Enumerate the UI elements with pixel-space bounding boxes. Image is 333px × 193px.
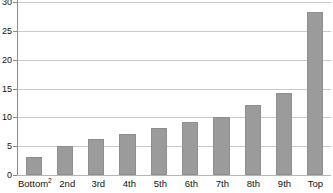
y-axis-tick-label: 30 — [0, 0, 12, 7]
bar — [213, 117, 229, 175]
bar-slot — [49, 0, 80, 176]
bar — [119, 134, 135, 175]
x-axis-tick-label: 2nd — [52, 177, 83, 190]
x-axis-tick-label: 3rd — [83, 177, 114, 190]
bar-slot — [174, 0, 205, 176]
y-axis-tick-label: 25 — [0, 27, 12, 36]
x-axis-tick-label: 8th — [238, 177, 269, 190]
y-axis-tick-label: 15 — [0, 85, 12, 94]
bar — [57, 146, 73, 175]
bar — [88, 139, 104, 175]
bar — [276, 93, 292, 175]
bar-slot — [206, 0, 237, 176]
bars-container — [18, 0, 331, 176]
bar-chart: 051015202530 Bottom22nd3rd4th5th6th7th8t… — [0, 0, 333, 193]
y-axis-tick-label: 5 — [0, 142, 12, 151]
x-axis-tick-label: 6th — [176, 177, 207, 190]
bar-slot — [300, 0, 331, 176]
x-axis-tick-label: 4th — [114, 177, 145, 190]
bar-slot — [268, 0, 299, 176]
x-axis-labels: Bottom22nd3rd4th5th6th7th8th9thTop — [18, 177, 331, 190]
y-axis-tick-label: 0 — [0, 171, 12, 180]
bar — [182, 122, 198, 175]
bar-slot — [237, 0, 268, 176]
bar — [26, 157, 42, 175]
x-axis-tick-label: 5th — [145, 177, 176, 190]
bar — [245, 105, 261, 175]
bar-slot — [143, 0, 174, 176]
bar — [151, 128, 167, 175]
x-axis-tick-label: Top — [300, 177, 331, 190]
y-axis-tick-label: 20 — [0, 56, 12, 65]
bar — [307, 12, 323, 175]
bar-slot — [81, 0, 112, 176]
x-axis-tick-label: Bottom2 — [18, 177, 52, 190]
bar-slot — [112, 0, 143, 176]
x-axis-tick-label: 7th — [207, 177, 238, 190]
bar-slot — [18, 0, 49, 176]
x-axis-tick-label: 9th — [269, 177, 300, 190]
y-axis-tick-label: 10 — [0, 113, 12, 122]
